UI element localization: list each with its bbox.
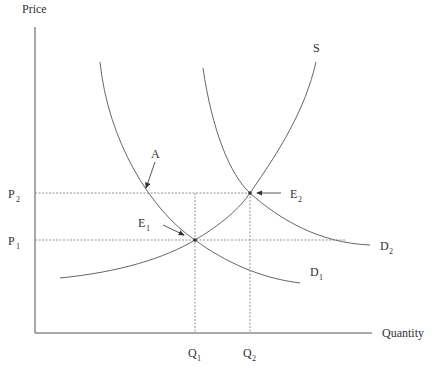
svg-text:S: S [313,41,320,55]
svg-text:Q: Q [188,346,197,360]
demand-curve-d2 [203,68,370,245]
arrow-e1-icon [163,225,184,235]
quantity-label-q2: Q 2 [243,346,256,363]
point-label-e1: E 1 [138,216,150,233]
demand-curve-d1 [100,62,300,283]
svg-text:D: D [380,239,389,253]
svg-text:E: E [290,187,297,201]
svg-text:1: 1 [197,354,201,363]
svg-text:2: 2 [298,195,302,204]
supply-demand-diagram: Price Quantity P 2 P 1 Q 1 Q 2 S D 1 D 2… [0,0,437,370]
y-axis-label: Price [22,2,47,16]
svg-text:P: P [8,187,15,201]
svg-text:1: 1 [319,273,323,282]
curve-label-d1: D 1 [310,265,323,282]
svg-text:A: A [151,147,160,161]
equilibrium-point-e1 [193,238,197,242]
curve-label-d2: D 2 [380,239,393,256]
x-axis-label: Quantity [382,326,424,340]
svg-text:P: P [8,234,15,248]
point-label-e2: E 2 [290,187,302,204]
svg-text:2: 2 [252,354,256,363]
point-label-a: A [151,147,160,161]
svg-text:2: 2 [389,247,393,256]
supply-curve-s [60,62,316,278]
svg-text:1: 1 [16,242,20,251]
price-label-p2: P 2 [8,187,20,204]
quantity-label-q1: Q 1 [188,346,201,363]
svg-text:1: 1 [146,224,150,233]
svg-text:2: 2 [16,195,20,204]
equilibrium-point-e2 [248,191,252,195]
price-label-p1: P 1 [8,234,20,251]
svg-text:D: D [310,265,319,279]
arrow-a-icon [146,162,155,188]
svg-text:E: E [138,216,145,230]
svg-text:Q: Q [243,346,252,360]
curve-label-s: S [313,41,320,55]
